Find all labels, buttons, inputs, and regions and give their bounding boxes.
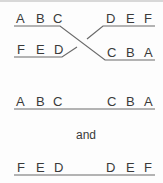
result2-left-1: F (17, 161, 25, 174)
label-bottom-left-2: E (36, 43, 45, 56)
result1-left-3: C (53, 95, 62, 108)
result1-right-2: B (126, 95, 135, 108)
label-top-left-1: A (16, 12, 25, 25)
result2-right-3: F (144, 161, 152, 174)
diagram-lines (0, 0, 163, 183)
label-top-right-3: F (144, 12, 152, 25)
connector-and: and (76, 128, 96, 142)
result1-left-1: A (16, 95, 25, 108)
label-bottom-right-3: A (144, 46, 153, 59)
result2-left-3: D (54, 161, 63, 174)
label-bottom-right-2: B (126, 46, 135, 59)
result1-right-1: C (107, 95, 116, 108)
result1-left-2: B (36, 95, 45, 108)
label-top-left-2: B (36, 12, 45, 25)
label-top-right-2: E (126, 12, 135, 25)
label-bottom-left-1: F (17, 43, 25, 56)
label-bottom-right-1: C (107, 46, 116, 59)
result2-left-2: E (36, 161, 45, 174)
label-top-right-1: D (106, 12, 115, 25)
result2-right-2: E (126, 161, 135, 174)
crossover-diagram: A B C D E F F E D C B A A B C C B A and … (0, 0, 163, 183)
label-top-left-3: C (53, 12, 62, 25)
label-bottom-left-3: D (54, 43, 63, 56)
result2-right-1: D (106, 161, 115, 174)
result1-right-3: A (144, 95, 153, 108)
strand-def-upper (87, 26, 155, 39)
